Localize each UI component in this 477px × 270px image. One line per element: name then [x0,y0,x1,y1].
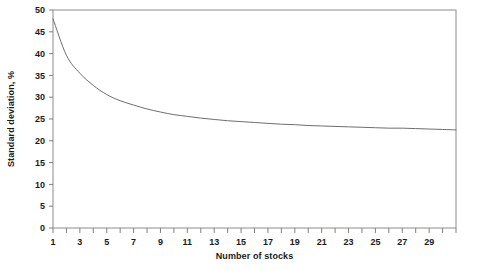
y-tick-label: 10 [35,180,45,190]
x-axis-ticks: 1357911131517192123252729 [50,228,456,247]
x-tick-label: 13 [209,237,219,247]
x-tick-label: 25 [370,237,380,247]
y-tick-label: 35 [35,71,45,81]
x-tick-label: 7 [131,237,136,247]
x-tick-label: 17 [263,237,273,247]
y-tick-label: 40 [35,49,45,59]
y-tick-label: 25 [35,114,45,124]
x-tick-label: 5 [104,237,109,247]
diversification-chart-figure: Standard deviation, % 051015202530354045… [0,0,477,270]
plot-border [53,10,456,228]
y-tick-label: 5 [40,201,45,211]
x-axis-title: Number of stocks [53,251,456,261]
x-tick-label: 11 [183,237,193,247]
y-tick-label: 15 [35,158,45,168]
y-tick-label: 20 [35,136,45,146]
x-tick-label: 9 [158,237,163,247]
x-tick-label: 19 [290,237,300,247]
x-tick-label: 27 [397,237,407,247]
x-tick-label: 21 [317,237,327,247]
x-tick-label: 29 [424,237,434,247]
y-tick-label: 0 [40,223,45,233]
y-tick-label: 45 [35,27,45,37]
x-tick-label: 3 [77,237,82,247]
y-tick-label: 50 [35,5,45,15]
x-tick-label: 1 [50,237,55,247]
x-tick-label: 23 [344,237,354,247]
x-tick-label: 15 [236,237,246,247]
y-axis-ticks: 05101520253035404550 [35,5,53,233]
axis-frame [53,10,456,228]
y-tick-label: 30 [35,92,45,102]
chart-plot-area: 05101520253035404550 1357911131517192123… [0,0,477,270]
